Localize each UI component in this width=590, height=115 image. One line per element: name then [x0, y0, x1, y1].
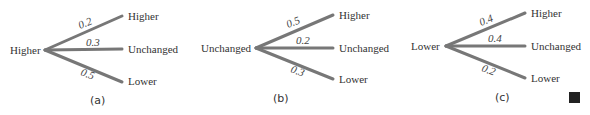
root-node-a: Higher — [10, 44, 41, 56]
prob-c-lower: 0.2 — [480, 62, 497, 78]
leaf-b-unchanged: Unchanged — [339, 42, 390, 54]
leaf-b-higher: Higher — [339, 9, 370, 21]
end-of-proof-square-icon — [569, 92, 580, 103]
caption-a: (a) — [90, 94, 105, 107]
tree-diagrams: Higher Higher Unchanged Lower 0.2 0.3 0.… — [0, 0, 590, 115]
leaf-a-higher: Higher — [128, 10, 159, 22]
caption-b: (b) — [273, 92, 289, 105]
prob-a-unchanged: 0.3 — [86, 36, 100, 48]
prob-c-unchanged: 0.4 — [488, 32, 502, 44]
tree-diagram-a: Higher Higher Unchanged Lower 0.2 0.3 0.… — [10, 10, 179, 107]
tree-diagram-c: Lower Higher Unchanged Lower 0.4 0.4 0.2… — [411, 7, 582, 104]
leaf-b-lower: Lower — [339, 73, 368, 85]
tree-diagram-b: Unchanged Higher Unchanged Lower 0.5 0.2… — [201, 9, 390, 105]
root-node-c: Lower — [411, 40, 440, 52]
leaf-a-lower: Lower — [128, 75, 157, 87]
leaf-c-lower: Lower — [531, 72, 560, 84]
prob-a-lower: 0.5 — [79, 66, 96, 82]
prob-b-lower: 0.3 — [289, 63, 306, 79]
prob-b-unchanged: 0.2 — [296, 34, 310, 46]
caption-c: (c) — [495, 91, 510, 104]
leaf-c-unchanged: Unchanged — [531, 40, 582, 52]
leaf-a-unchanged: Unchanged — [128, 43, 179, 55]
prob-b-higher: 0.5 — [284, 13, 302, 29]
root-node-b: Unchanged — [201, 42, 252, 54]
leaf-c-higher: Higher — [531, 7, 562, 19]
branch-a-unchanged — [45, 49, 122, 50]
